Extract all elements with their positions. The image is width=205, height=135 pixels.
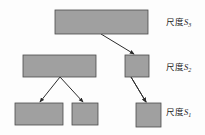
scale-label-s3-subscript: 3 <box>188 22 191 28</box>
node-s2-left <box>23 55 96 77</box>
scale-label-s1-subscript: 1 <box>188 112 191 118</box>
scale-label-s3: 尺度S3 <box>166 18 191 28</box>
node-s1-right <box>136 103 161 127</box>
scale-label-s2: 尺度S2 <box>166 63 191 73</box>
node-s1-left <box>15 103 63 125</box>
node-s3-root <box>55 10 148 34</box>
scale-hierarchy-diagram: 尺度S3 尺度S2 尺度S1 <box>0 0 205 135</box>
node-s1-middle <box>72 103 98 125</box>
scale-label-s1: 尺度S1 <box>166 108 191 118</box>
node-s2-right <box>125 55 149 77</box>
node-group <box>15 10 161 127</box>
scale-label-s2-subscript: 2 <box>188 67 191 73</box>
scale-label-s2-text: 尺度 <box>166 62 184 72</box>
edge-s3-to-s2-right <box>40 77 60 102</box>
edge-s3-to-s2-left <box>101 34 134 54</box>
scale-label-s1-text: 尺度 <box>166 107 184 117</box>
edge-s2-to-s1-left <box>60 77 83 102</box>
scale-label-s3-text: 尺度 <box>166 17 184 27</box>
edge-s2-to-s1-right <box>131 77 146 102</box>
